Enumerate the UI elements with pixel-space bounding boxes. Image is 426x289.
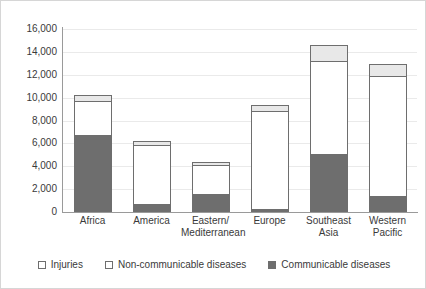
bar-segment[interactable] — [133, 204, 171, 212]
legend-swatch-icon — [268, 261, 276, 269]
plot-area — [63, 29, 417, 212]
y-axis-tick-label: 6,000 — [3, 138, 57, 148]
legend-item[interactable]: Communicable diseases — [268, 259, 390, 270]
stacked-bar[interactable] — [192, 162, 230, 212]
legend-item[interactable]: Injuries — [38, 259, 83, 270]
x-axis-tick-label: America — [122, 215, 181, 227]
legend-label: Communicable diseases — [281, 259, 390, 270]
x-axis-tick-label-line: Europe — [240, 215, 299, 227]
bar-segment[interactable] — [251, 105, 289, 112]
chart-figure: 16,00014,00012,00010,0008,0006,0004,0002… — [0, 0, 426, 289]
bar-slot — [299, 29, 358, 212]
bar-slot — [181, 29, 240, 212]
bar-segment[interactable] — [74, 135, 112, 212]
bar-segment[interactable] — [192, 194, 230, 212]
bar-segment[interactable] — [369, 196, 407, 212]
bar-segment[interactable] — [251, 111, 289, 208]
bar-segment[interactable] — [251, 209, 289, 212]
legend-swatch-icon — [38, 261, 46, 269]
y-axis-tick-labels: 16,00014,00012,00010,0008,0006,0004,0002… — [1, 29, 57, 212]
x-axis-tick-label-line: Western — [358, 215, 417, 227]
x-axis-tick-label-line: Eastern/ — [181, 215, 240, 227]
y-axis-tick-label: 12,000 — [3, 70, 57, 80]
x-axis-tick-label-line: Southeast — [299, 215, 358, 227]
x-axis-tick-label-line: Africa — [63, 215, 122, 227]
x-axis-tick-labels: AfricaAmericaEastern/MediterraneanEurope… — [63, 215, 417, 249]
stacked-bar[interactable] — [369, 64, 407, 212]
x-axis-tick-label: WesternPacific — [358, 215, 417, 239]
legend-swatch-icon — [105, 261, 113, 269]
y-axis-tick-label: 0 — [3, 207, 57, 217]
chart-legend: InjuriesNon-communicable diseasesCommuni… — [1, 259, 426, 270]
stacked-bar[interactable] — [74, 95, 112, 212]
bar-segment[interactable] — [310, 154, 348, 212]
x-axis-tick-label-line: Pacific — [358, 227, 417, 239]
stacked-bar[interactable] — [310, 45, 348, 212]
stacked-bar[interactable] — [133, 141, 171, 212]
bar-segment[interactable] — [369, 76, 407, 196]
legend-item[interactable]: Non-communicable diseases — [105, 259, 246, 270]
bar-slot — [63, 29, 122, 212]
bar-segment[interactable] — [133, 145, 171, 204]
bar-segment[interactable] — [192, 165, 230, 194]
x-axis-tick-label-line: Asia — [299, 227, 358, 239]
bar-segment[interactable] — [74, 101, 112, 135]
x-axis-tick-label: Africa — [63, 215, 122, 227]
x-axis-line — [62, 212, 418, 213]
y-axis-tick-label: 2,000 — [3, 184, 57, 194]
legend-label: Injuries — [51, 259, 83, 270]
bar-slot — [240, 29, 299, 212]
x-axis-tick-label: Eastern/Mediterranean — [181, 215, 240, 239]
x-axis-tick-label: SoutheastAsia — [299, 215, 358, 239]
bar-segment[interactable] — [310, 61, 348, 154]
x-axis-tick-label-line: Mediterranean — [181, 227, 240, 239]
bar-slot — [122, 29, 181, 212]
bar-segment[interactable] — [369, 64, 407, 75]
y-axis-tick-label: 8,000 — [3, 116, 57, 126]
y-axis-tick-label: 10,000 — [3, 93, 57, 103]
y-axis-tick-label: 16,000 — [3, 24, 57, 34]
x-axis-tick-label-line: America — [122, 215, 181, 227]
x-axis-tick-label: Europe — [240, 215, 299, 227]
y-axis-tick-label: 14,000 — [3, 47, 57, 57]
bar-segment[interactable] — [310, 45, 348, 61]
bar-slot — [358, 29, 417, 212]
stacked-bar[interactable] — [251, 105, 289, 213]
legend-label: Non-communicable diseases — [118, 259, 246, 270]
y-axis-tick-label: 4,000 — [3, 161, 57, 171]
